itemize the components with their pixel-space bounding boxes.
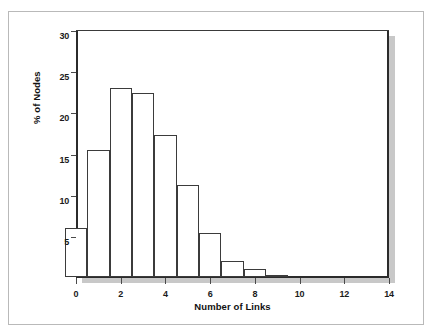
- bar: [154, 135, 176, 277]
- x-tick-label: 4: [163, 289, 168, 299]
- y-tick-label: 10: [59, 196, 69, 206]
- bar: [199, 233, 221, 277]
- x-axis-label: Number of Links: [76, 301, 389, 312]
- x-tick-mark: [76, 278, 77, 284]
- figure: 51015202530 02468101214 Number of Links …: [0, 0, 435, 336]
- y-tick-label: 25: [59, 72, 69, 82]
- x-tick-label: 0: [74, 289, 79, 299]
- bar: [65, 228, 87, 277]
- x-tick-mark: [165, 278, 166, 284]
- x-tick-label: 6: [208, 289, 213, 299]
- y-tick-label: 15: [59, 155, 69, 165]
- y-tick-label: 5: [64, 237, 69, 247]
- bar: [266, 275, 288, 277]
- bar: [221, 261, 243, 277]
- y-axis-label: % of Nodes: [31, 71, 42, 124]
- x-tick-mark: [344, 278, 345, 284]
- y-tick-mark: [71, 72, 76, 73]
- x-tick-label: 8: [252, 289, 257, 299]
- y-tick-mark: [71, 31, 76, 32]
- bar: [110, 88, 132, 277]
- y-tick-mark: [71, 196, 76, 197]
- x-tick-mark: [121, 278, 122, 284]
- y-tick-mark: [71, 237, 76, 238]
- bar: [244, 269, 266, 277]
- right-spine: [387, 31, 389, 278]
- x-tick-mark: [389, 278, 390, 284]
- x-tick-label: 10: [295, 289, 305, 299]
- y-tick-mark: [71, 155, 76, 156]
- x-tick-mark: [300, 278, 301, 284]
- x-tick-label: 14: [384, 289, 394, 299]
- bar: [132, 93, 154, 277]
- plot-area: 51015202530 02468101214: [76, 30, 389, 277]
- y-tick-mark: [71, 113, 76, 114]
- x-tick-label: 12: [339, 289, 349, 299]
- x-tick-label: 2: [118, 289, 123, 299]
- bar: [87, 150, 109, 277]
- y-tick-label: 20: [59, 113, 69, 123]
- x-tick-mark: [210, 278, 211, 284]
- x-tick-mark: [255, 278, 256, 284]
- bar: [177, 185, 199, 277]
- plot-wrap: 51015202530 02468101214: [76, 30, 389, 277]
- y-tick-label: 30: [59, 31, 69, 41]
